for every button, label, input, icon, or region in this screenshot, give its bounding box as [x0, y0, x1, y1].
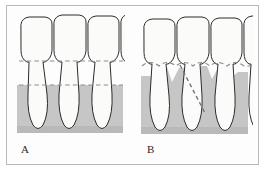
figure-frame: A [6, 5, 259, 165]
dental-bone-loss-figure: A [0, 0, 265, 171]
panel-b [141, 16, 258, 134]
figure-canvas: A [7, 6, 258, 164]
panel-label-b: B [147, 143, 155, 155]
panel-a [17, 14, 154, 133]
panel-label-a: A [21, 143, 29, 155]
